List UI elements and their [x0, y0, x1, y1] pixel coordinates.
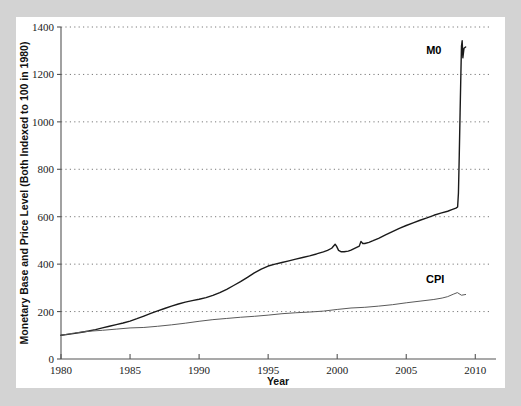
series-lines[interactable] [61, 41, 466, 336]
y-axis: 0200400600800100012001400 [32, 21, 61, 365]
y-axis-tick-labels: 0200400600800100012001400 [32, 21, 55, 365]
x-tick-label-1985: 1985 [119, 364, 142, 376]
y-tick-label-600: 600 [38, 211, 55, 223]
series-line-cpi[interactable] [61, 293, 466, 336]
y-tick-label-800: 800 [38, 163, 55, 175]
figure-root: 0200400600800100012001400 19801985199019… [0, 0, 521, 406]
x-axis: 1980198519901995200020052010 [50, 354, 496, 376]
series-label-m0: M0 [426, 44, 441, 56]
x-axis-title: Year [267, 375, 289, 387]
x-tick-label-1980: 1980 [50, 364, 73, 376]
y-tick-label-200: 200 [38, 306, 55, 318]
y-tick-label-1000: 1000 [32, 116, 55, 128]
y-axis-title: Monetary Base and Price Level (Both Inde… [18, 42, 30, 345]
y-axis-ticks [57, 27, 61, 359]
series-label-cpi: CPI [426, 273, 444, 285]
chart-card: 0200400600800100012001400 19801985199019… [16, 17, 505, 388]
x-tick-label-2000: 2000 [326, 364, 349, 376]
x-axis-ticks [61, 354, 475, 359]
y-tick-label-400: 400 [38, 258, 55, 270]
y-tick-label-1400: 1400 [32, 21, 55, 33]
grid-lines [61, 27, 490, 312]
x-tick-label-1990: 1990 [188, 364, 211, 376]
x-tick-label-2010: 2010 [464, 364, 487, 376]
series-line-m0[interactable] [61, 41, 466, 336]
x-tick-label-2005: 2005 [395, 364, 418, 376]
line-chart[interactable]: 0200400600800100012001400 19801985199019… [16, 17, 505, 388]
series-annotations: M0CPI [426, 44, 444, 285]
y-tick-label-1200: 1200 [32, 68, 55, 80]
